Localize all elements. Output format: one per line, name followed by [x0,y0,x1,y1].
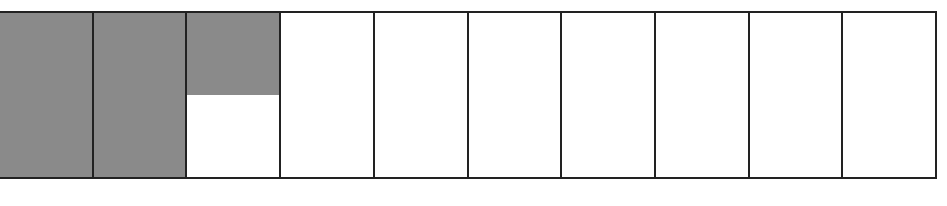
strip-cell-3 [185,13,279,177]
fraction-strip [0,11,937,179]
shaded-region [94,13,186,177]
strip-cell-4 [279,13,373,177]
strip-cell-5 [373,13,467,177]
strip-cell-8 [654,13,748,177]
strip-cell-9 [748,13,842,177]
strip-cell-2 [92,13,186,177]
shaded-region [187,13,279,95]
strip-cell-6 [467,13,561,177]
strip-cell-10 [841,13,935,177]
shaded-region [0,13,92,177]
strip-cell-7 [560,13,654,177]
strip-cell-1 [0,13,92,177]
